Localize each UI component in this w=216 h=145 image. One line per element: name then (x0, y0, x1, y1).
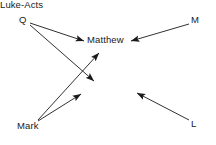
node-label-q: Q (19, 15, 27, 25)
node-label-matthew: Matthew (87, 35, 124, 45)
node-label-luke-acts: Luke-Acts (0, 0, 43, 10)
node-label-m: M (191, 15, 199, 25)
node-label-l: L (191, 119, 196, 129)
diagram-canvas: Q M Matthew Luke-Acts Mark L (0, 0, 216, 145)
edge-m-to-matthew (131, 24, 189, 41)
node-label-mark: Mark (17, 121, 39, 131)
edge-l-to-luke-acts (137, 93, 189, 120)
edge-mark-to-matthew (38, 53, 99, 120)
edge-mark-to-luke-acts (38, 94, 81, 121)
